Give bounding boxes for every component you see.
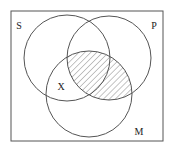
x-mark: X (57, 81, 65, 92)
venn-diagram: S P M X (0, 0, 171, 147)
set-label-m: M (135, 126, 144, 137)
set-label-p: P (151, 20, 157, 31)
set-label-s: S (16, 20, 22, 31)
